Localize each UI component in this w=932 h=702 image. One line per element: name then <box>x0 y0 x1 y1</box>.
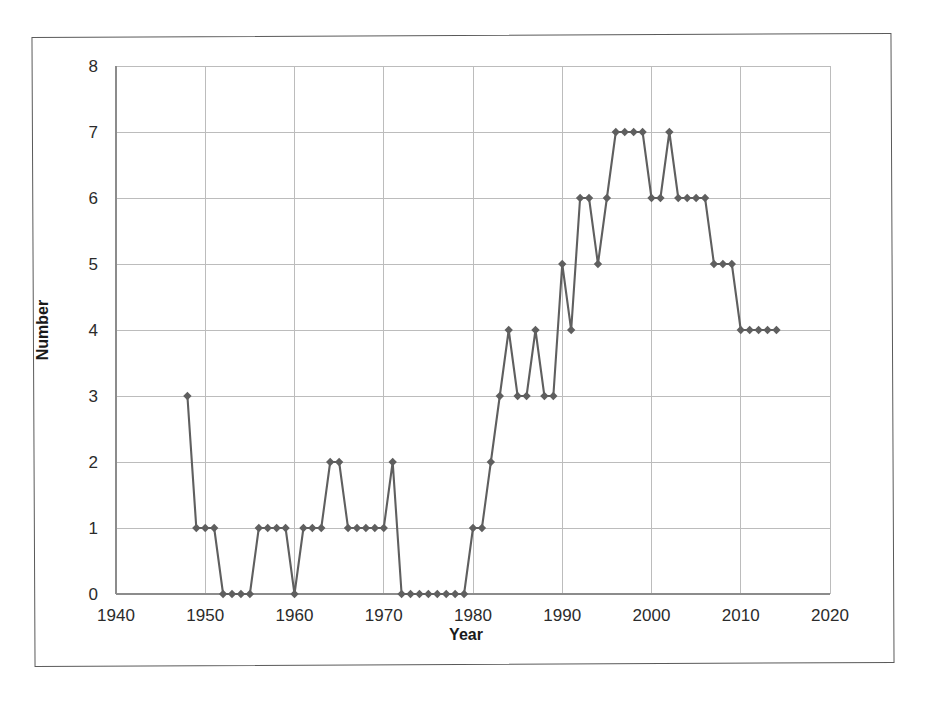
y-tick-labels: 012345678 <box>89 57 98 604</box>
x-tick-label: 1990 <box>543 606 581 625</box>
x-tick-label: 1960 <box>276 606 314 625</box>
x-tick-label: 2020 <box>811 606 849 625</box>
x-tick-label: 1950 <box>186 606 224 625</box>
y-tick-label: 8 <box>89 57 98 76</box>
chart-figure: 012345678 194019501960197019801990200020… <box>0 0 932 702</box>
y-axis-title: Number <box>34 300 51 360</box>
x-tick-labels: 194019501960197019801990200020102020 <box>97 606 849 625</box>
x-axis-title: Year <box>449 626 483 643</box>
chart-page: 012345678 194019501960197019801990200020… <box>0 0 932 702</box>
y-tick-label: 1 <box>89 519 98 538</box>
x-tick-label: 1940 <box>97 606 135 625</box>
x-tick-label: 2000 <box>633 606 671 625</box>
line-chart-svg: 012345678 194019501960197019801990200020… <box>0 0 932 702</box>
y-tick-label: 4 <box>89 321 98 340</box>
y-tick-label: 6 <box>89 189 98 208</box>
y-tick-label: 5 <box>89 255 98 274</box>
y-tick-label: 7 <box>89 123 98 142</box>
y-tick-label: 0 <box>89 585 98 604</box>
x-tick-label: 2010 <box>722 606 760 625</box>
x-tick-label: 1980 <box>454 606 492 625</box>
x-tick-label: 1970 <box>365 606 403 625</box>
y-tick-label: 2 <box>89 453 98 472</box>
y-tick-label: 3 <box>89 387 98 406</box>
